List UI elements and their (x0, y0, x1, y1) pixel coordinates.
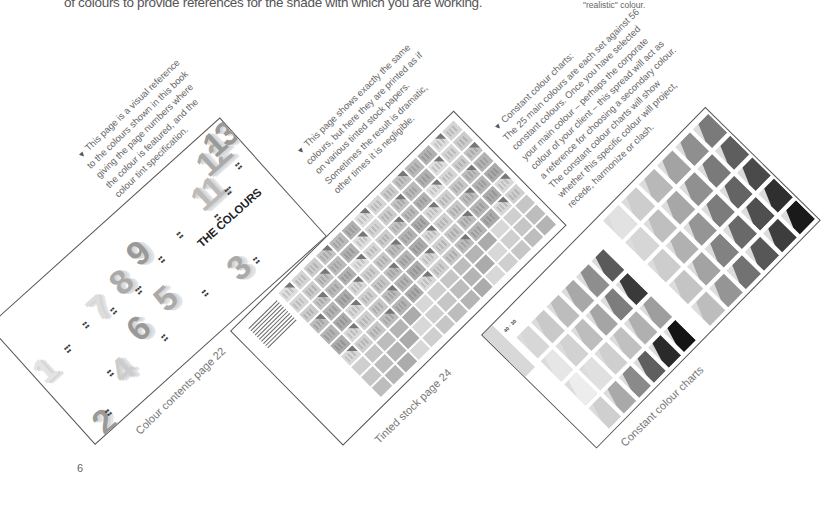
big-number: 5 (146, 280, 184, 320)
tint-spec: ■■■■ (157, 255, 166, 264)
tinted-stock-page-thumbnail (230, 111, 567, 446)
intro-caption: of colours to provide references for the… (64, 0, 482, 10)
big-number: 2 (84, 403, 122, 443)
tint-spec: ■■■■ (252, 256, 261, 265)
tint-spec: ■■■■ (160, 333, 169, 342)
big-number: 9 (118, 234, 156, 274)
big-number: 3 (219, 249, 257, 289)
page-number: 6 (77, 462, 83, 474)
big-number: 8 (101, 263, 139, 303)
big-number: 1 (24, 351, 62, 391)
big-number: 6 (119, 309, 157, 349)
tint-spec: ■■■■ (201, 289, 210, 298)
legend-bars (248, 300, 298, 349)
tint-spec: ■■■■ (176, 231, 185, 240)
colour-contents-page-thumbnail: 11 12 13 THE COLOURS 9 8 7 6 5 4 3 2 1 ■… (0, 117, 327, 445)
tint-spec: ■■■■ (82, 321, 91, 330)
chart-header-label: 40 · 30 (502, 318, 517, 333)
tint-spec: ■■■■ (234, 161, 243, 170)
tint-spec: ■■■■■ (63, 344, 74, 355)
